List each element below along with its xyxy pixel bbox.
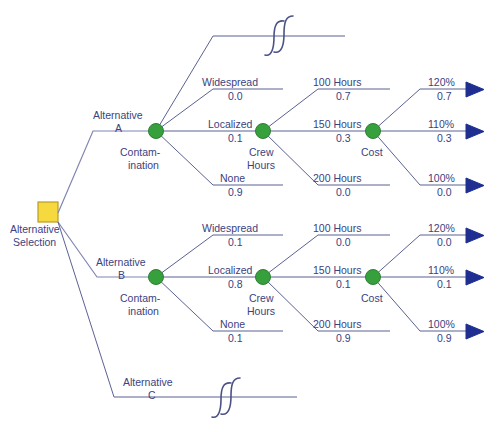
prob-widespread: 0.0	[228, 90, 243, 102]
truncated-top-branch	[156, 16, 345, 131]
prob-100-hours: 0.7	[336, 90, 351, 102]
prob-100-pct: 0.0	[437, 186, 452, 198]
crew-hours-b-label-line2: Hours	[247, 305, 275, 317]
decision-square[interactable]	[38, 202, 58, 222]
branch-label-none: None	[220, 318, 245, 330]
prob-120-pct: 0.0	[437, 236, 452, 248]
branch-label-150-hours: 150 Hours	[313, 118, 361, 130]
terminal-triangle[interactable]	[466, 178, 484, 193]
contamination-b-label-line1: Contam-	[120, 292, 161, 304]
crew-hours-b-label-line1: Crew	[249, 292, 274, 304]
branch-label-150-hours: 150 Hours	[313, 264, 361, 276]
alt-a-line	[58, 131, 156, 213]
decision-tree-canvas: Alternative Selection Alternative A Alte…	[0, 0, 498, 432]
branch-label-200-hours: 200 Hours	[313, 172, 361, 184]
terminal-triangle[interactable]	[466, 270, 484, 285]
branch-label-100-hours: 100 Hours	[313, 76, 361, 88]
alt-a-label-line2: A	[115, 122, 122, 134]
branch-alternative-c[interactable]: Alternative C	[58, 222, 297, 417]
prob-110-pct: 0.3	[437, 132, 452, 144]
branch-label-100-hours: 100 Hours	[313, 222, 361, 234]
branch-label-100-pct: 100%	[428, 172, 455, 184]
cost-a-label: Cost	[361, 146, 383, 158]
chance-circle[interactable]	[256, 270, 271, 285]
root-label-line1: Alternative	[10, 223, 60, 235]
prob-200-hours: 0.9	[336, 332, 351, 344]
chance-circle[interactable]	[366, 124, 381, 139]
cost-b-label: Cost	[361, 292, 383, 304]
branch-label-localized: Localized	[208, 264, 253, 276]
prob-none: 0.9	[228, 186, 243, 198]
terminal-triangle[interactable]	[466, 324, 484, 339]
branch-label-110-pct: 110%	[428, 264, 454, 276]
branch-label-100-pct: 100%	[428, 318, 455, 330]
prob-widespread: 0.1	[228, 236, 243, 248]
alt-c-label-line2: C	[148, 389, 156, 401]
contamination-a-label-line1: Contam-	[120, 146, 161, 158]
contamination-a-label-line2: ination	[128, 159, 159, 171]
prob-localized: 0.1	[228, 132, 243, 144]
terminal-triangle[interactable]	[466, 228, 484, 243]
branch-label-120-pct: 120%	[428, 76, 455, 88]
branch-label-widespread: Widespread	[202, 222, 258, 234]
chance-circle[interactable]	[366, 270, 381, 285]
branch-alternative-b[interactable]: Alternative B	[58, 222, 156, 281]
prob-100-hours: 0.0	[336, 236, 351, 248]
prob-110-pct: 0.1	[437, 278, 452, 290]
contamination-b-label-line2: ination	[128, 305, 159, 317]
branch-label-localized: Localized	[208, 118, 253, 130]
chance-circle[interactable]	[149, 124, 164, 139]
alt-c-label-line1: Alternative	[123, 376, 173, 388]
prob-150-hours: 0.1	[336, 278, 351, 290]
prob-200-hours: 0.0	[336, 186, 351, 198]
alt-b-label-line2: B	[118, 269, 125, 281]
branch-label-110-pct: 110%	[428, 118, 454, 130]
chance-circle[interactable]	[149, 270, 164, 285]
prob-100-pct: 0.9	[437, 332, 452, 344]
branch-label-120-pct: 120%	[428, 222, 455, 234]
crew-hours-a-label-line1: Crew	[249, 146, 274, 158]
terminal-triangle[interactable]	[466, 82, 484, 97]
decision-tree-svg: Alternative Selection Alternative A Alte…	[0, 0, 498, 432]
prob-120-pct: 0.7	[437, 90, 452, 102]
break-symbol-bottom	[212, 378, 240, 417]
prob-150-hours: 0.3	[336, 132, 351, 144]
root-decision-node[interactable]: Alternative Selection	[10, 202, 60, 248]
terminal-triangle[interactable]	[466, 124, 484, 139]
prob-localized: 0.8	[228, 278, 243, 290]
branch-label-widespread: Widespread	[202, 76, 258, 88]
root-label-line2: Selection	[13, 236, 56, 248]
crew-hours-a-label-line2: Hours	[247, 159, 275, 171]
alt-a-label-line1: Alternative	[93, 109, 143, 121]
prob-none: 0.1	[228, 332, 243, 344]
chance-circle[interactable]	[256, 124, 271, 139]
alt-b-label-line1: Alternative	[96, 256, 146, 268]
branch-label-200-hours: 200 Hours	[313, 318, 361, 330]
branch-label-none: None	[220, 172, 245, 184]
